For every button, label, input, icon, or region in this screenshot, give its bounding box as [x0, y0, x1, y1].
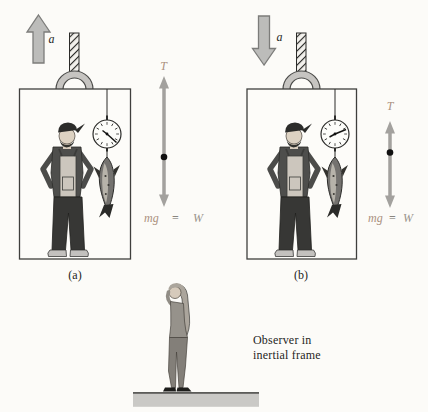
- elevator-fish-diagram: a (a) T mg = W a: [0, 0, 428, 412]
- panel-b-caption: (b): [294, 268, 308, 282]
- observer-foot-left: [163, 388, 176, 392]
- acceleration-label-a: a: [49, 32, 55, 46]
- ground-strip: [133, 394, 259, 407]
- panel-a-caption: (a): [68, 268, 81, 282]
- weight-equation: mg = W: [144, 208, 204, 225]
- scale-needle-pivot: [334, 133, 337, 136]
- physics-figure-page: a (a) T mg = W a: [0, 0, 428, 412]
- scale-needle-pivot: [106, 133, 109, 136]
- point-mass-dot: [161, 154, 168, 161]
- point-mass-dot: [387, 149, 394, 156]
- observer-caption-line1: Observer in: [253, 333, 312, 347]
- acceleration-label-a: a: [277, 30, 283, 44]
- observer-caption-line2: inertial frame: [253, 348, 321, 362]
- weight-equation: mg = W: [368, 208, 414, 225]
